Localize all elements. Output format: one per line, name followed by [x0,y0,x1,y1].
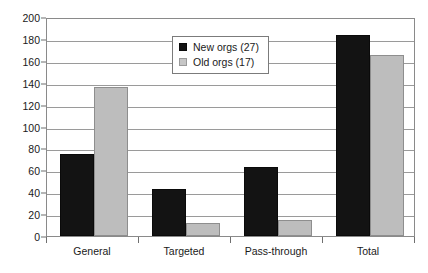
y-tick-label: 80 [28,144,40,155]
x-tick-mark [138,237,139,243]
legend-label: New orgs (27) [193,42,259,53]
x-category-label-targeted: Targeted [164,246,205,257]
legend-label: Old orgs (17) [193,57,254,68]
y-tick-label: 60 [28,166,40,177]
y-axis: 200 180 160 140 120 100 80 60 40 20 0 [0,18,40,237]
y-tick-label: 100 [22,122,40,133]
x-tick-mark [230,237,231,243]
legend-item-old-orgs: Old orgs (17) [179,56,262,68]
x-category-label-pass-through: Pass-through [245,246,307,257]
bar-old-total [370,55,404,236]
x-category-label-total: Total [357,246,379,257]
bar-chart: 200 180 160 140 120 100 80 60 40 20 0 [0,0,428,273]
x-tick-mark [414,237,415,243]
y-tick-label: 200 [22,13,40,24]
legend-swatch-icon [179,43,187,51]
y-tick-label: 180 [22,35,40,46]
legend: New orgs (27) Old orgs (17) [172,36,269,74]
y-tick-label: 0 [34,232,40,243]
x-category-label-general: General [73,246,110,257]
x-tick-mark [46,237,47,243]
legend-swatch-icon [179,58,187,66]
x-tick-mark [322,237,323,243]
y-tick-label: 120 [22,100,40,111]
legend-item-new-orgs: New orgs (27) [179,41,262,53]
bar-new-general [60,154,94,236]
bar-old-general [94,87,128,236]
bar-old-pass-through [278,220,312,236]
bar-new-total [336,35,370,236]
bar-new-targeted [152,189,186,236]
bar-new-pass-through [244,167,278,236]
y-tick-label: 140 [22,78,40,89]
bar-old-targeted [186,223,220,236]
y-tick-label: 40 [28,188,40,199]
y-tick-label: 160 [22,57,40,68]
y-tick-label: 20 [28,210,40,221]
